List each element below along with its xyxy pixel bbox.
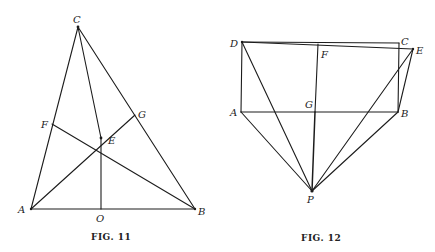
point-C: [77, 26, 80, 29]
segment-GP: [312, 112, 315, 191]
segment-EP: [312, 49, 413, 191]
label-C: C: [73, 14, 81, 25]
point-P: [310, 189, 313, 192]
label-G: G: [305, 99, 313, 110]
label-O: O: [96, 213, 104, 224]
segment-BP: [312, 112, 398, 191]
segment-CE: [78, 27, 101, 138]
label-D: D: [229, 38, 238, 49]
caption-fig-12: FIG. 12: [301, 233, 341, 243]
segment-AC: [31, 27, 78, 209]
label-C: C: [401, 36, 409, 47]
label-F: F: [40, 119, 49, 130]
segment-FB: [52, 124, 195, 209]
segment-FG: [315, 44, 318, 112]
point-B: [194, 208, 196, 210]
figures-canvas: C F G E A B O FIG. 11 D C E F A G B P FI…: [0, 0, 435, 252]
segment-DA: [241, 42, 242, 112]
segment-EB: [398, 49, 413, 112]
point-D: [241, 41, 243, 43]
figure-12: D C E F A G B P FIG. 12: [229, 36, 424, 243]
segment-AP: [241, 112, 312, 191]
segment-DP: [242, 42, 312, 191]
caption-fig-11: FIG. 11: [91, 232, 131, 242]
point-E: [100, 137, 103, 140]
label-P: P: [306, 194, 314, 205]
point-A: [30, 208, 32, 210]
label-A: A: [229, 107, 237, 118]
label-F: F: [320, 49, 329, 60]
segment-BC: [78, 27, 195, 209]
label-G: G: [138, 109, 146, 120]
label-E: E: [415, 45, 424, 56]
label-E: E: [107, 135, 116, 146]
segment-CB: [398, 43, 399, 112]
label-B: B: [197, 206, 205, 217]
point-E: [412, 48, 414, 50]
figure-11: C F G E A B O FIG. 11: [17, 14, 205, 242]
label-A: A: [17, 204, 25, 215]
label-B: B: [400, 108, 408, 119]
